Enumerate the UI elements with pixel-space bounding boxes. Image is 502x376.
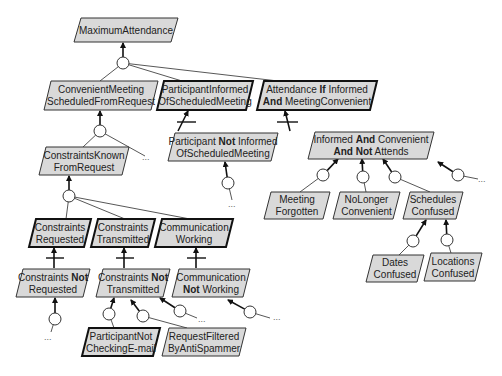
refinement-and-link: ... bbox=[228, 300, 281, 322]
goal-label: Locations bbox=[432, 256, 475, 267]
and-refinement-circle-icon bbox=[103, 308, 115, 320]
goal-node-constraints-not-requested[interactable]: Constraints NotRequested bbox=[16, 269, 90, 297]
refinement-and-link bbox=[399, 220, 426, 255]
goal-label: ParticipantInformed bbox=[162, 84, 249, 95]
ellipsis-text: ... bbox=[478, 174, 486, 184]
goal-label: Confused bbox=[374, 269, 417, 280]
goal-label: CheckingE-mail bbox=[86, 343, 156, 354]
goal-label: Constraints bbox=[98, 222, 149, 233]
goal-node-locations-confused[interactable]: LocationsConfused bbox=[424, 253, 482, 281]
and-refinement-circle-icon bbox=[407, 235, 419, 247]
obstruction-link bbox=[177, 111, 196, 131]
goal-label: Communication bbox=[159, 222, 228, 233]
goal-label: Working bbox=[176, 234, 213, 245]
goal-label: And Not Attends bbox=[333, 146, 408, 157]
goal-node-informed-and-convenient[interactable]: Informed And ConvenientAnd Not Attends bbox=[308, 132, 434, 159]
goal-label: ConvenientMeeting bbox=[58, 84, 144, 95]
goal-node-participant-not-informed[interactable]: Participant Not InformedOfScheduledMeeti… bbox=[168, 133, 278, 161]
obstruction-link bbox=[46, 248, 64, 268]
refinement-and-link: ... bbox=[222, 162, 236, 209]
goal-node-participant-not-checking-email[interactable]: ParticipantNotCheckingE-mail bbox=[82, 328, 160, 356]
goal-node-participant-informed[interactable]: ParticipantInformedOfScheduledMeeting bbox=[157, 81, 253, 110]
goal-label: Constraints Not bbox=[98, 272, 169, 283]
and-refinement-circle-icon bbox=[117, 57, 129, 69]
and-refinement-circle-icon bbox=[441, 234, 453, 246]
goal-label: ParticipantNot bbox=[90, 331, 153, 342]
and-refinement-circle-icon bbox=[137, 310, 149, 322]
goal-label: NoLonger bbox=[345, 194, 390, 205]
goal-label: Requested bbox=[36, 234, 84, 245]
goal-node-schedules-confused[interactable]: SchedulesConfused bbox=[403, 192, 463, 219]
obstruction-link bbox=[277, 111, 298, 131]
goal-label: Forgotten bbox=[276, 206, 319, 217]
goal-node-constraints-not-transmitted[interactable]: Constraints NotTransmitted bbox=[96, 269, 170, 297]
goal-node-dates-confused[interactable]: DatesConfused bbox=[366, 255, 424, 282]
goal-label: Attendance If Informed bbox=[266, 84, 368, 95]
obstruction-link bbox=[187, 248, 206, 268]
goal-label: OfScheduledMeeting bbox=[176, 148, 269, 159]
goal-label: And MeetingConvenient bbox=[263, 96, 372, 107]
obstruction-link bbox=[116, 248, 134, 268]
ellipsis-text: ... bbox=[228, 199, 236, 209]
goal-label: Requested bbox=[29, 284, 77, 295]
and-refinement-circle-icon bbox=[222, 177, 234, 189]
ellipsis-text: ... bbox=[273, 312, 281, 322]
goal-label: Informed And Convenient bbox=[313, 134, 428, 145]
goal-node-maximum-attendance[interactable]: MaximumAttendance bbox=[74, 18, 178, 42]
refinement-and-link: ... bbox=[44, 298, 61, 342]
goal-diagram: .................. MaximumAttendanceConv… bbox=[0, 0, 502, 376]
refinement-and-link bbox=[300, 159, 338, 192]
refinement-and-link: ... bbox=[160, 298, 206, 324]
goal-label: Confused bbox=[412, 206, 455, 217]
and-refinement-circle-icon bbox=[63, 190, 75, 202]
refinement-and-link bbox=[383, 159, 430, 192]
refinement-and-link bbox=[63, 176, 190, 219]
goal-label: ConstraintsKnown bbox=[43, 150, 124, 161]
goal-label: FromRequest bbox=[54, 162, 115, 173]
goal-label: Constraints bbox=[35, 222, 86, 233]
and-refinement-circle-icon bbox=[389, 171, 401, 183]
goal-node-constraints-requested[interactable]: ConstraintsRequested bbox=[29, 219, 91, 247]
goal-label: ScheduledFromRequest bbox=[47, 96, 155, 107]
goal-label: Confused bbox=[432, 268, 475, 279]
goal-nodes: MaximumAttendanceConvenientMeetingSchedu… bbox=[16, 18, 482, 356]
goal-node-constraints-transmitted[interactable]: ConstraintsTransmitted bbox=[91, 219, 155, 247]
refinement-and-link bbox=[103, 298, 115, 328]
ellipsis-text: ... bbox=[142, 152, 150, 162]
and-refinement-circle-icon bbox=[357, 171, 369, 183]
goal-label: Not Working bbox=[183, 284, 239, 295]
goal-node-no-longer-convenient[interactable]: NoLongerConvenient bbox=[333, 192, 400, 219]
goal-label: ByAntiSpammer bbox=[168, 343, 241, 354]
goal-label: Communication bbox=[176, 272, 245, 283]
and-refinement-circle-icon bbox=[174, 305, 186, 317]
goal-label: Transmitted bbox=[107, 284, 159, 295]
refinement-and-link bbox=[100, 43, 278, 81]
goal-node-communication-working[interactable]: CommunicationWorking bbox=[155, 219, 233, 247]
goal-node-constraints-known[interactable]: ConstraintsKnownFromRequest bbox=[39, 147, 129, 175]
goal-label: Meeting bbox=[279, 194, 315, 205]
goal-label: RequestFiltered bbox=[169, 331, 240, 342]
and-refinement-circle-icon bbox=[94, 125, 106, 137]
goal-label: OfScheduledMeeting bbox=[158, 96, 251, 107]
goal-label: Schedules bbox=[410, 194, 457, 205]
goal-label: Participant Not Informed bbox=[169, 136, 278, 147]
refinement-and-link bbox=[441, 220, 453, 253]
refinement-and-link bbox=[357, 159, 369, 192]
ellipsis-text: ... bbox=[198, 314, 206, 324]
goal-node-convenient-meeting[interactable]: ConvenientMeetingScheduledFromRequest bbox=[44, 81, 158, 110]
goal-node-meeting-forgotten[interactable]: MeetingForgotten bbox=[264, 192, 330, 219]
ellipsis-text: ... bbox=[44, 332, 52, 342]
goal-label: MaximumAttendance bbox=[79, 25, 173, 36]
goal-label: Constraints Not bbox=[18, 272, 89, 283]
refinement-and-link: ... bbox=[438, 162, 486, 184]
and-refinement-circle-icon bbox=[244, 306, 256, 318]
goal-label: Dates bbox=[382, 257, 408, 268]
goal-node-attendance-if-informed[interactable]: Attendance If InformedAnd MeetingConveni… bbox=[257, 81, 377, 110]
goal-node-request-filtered-by-antispammer[interactable]: RequestFilteredByAntiSpammer bbox=[162, 328, 246, 356]
goal-node-communication-not-working[interactable]: CommunicationNot Working bbox=[172, 269, 250, 297]
and-refinement-circle-icon bbox=[452, 169, 464, 181]
and-refinement-circle-icon bbox=[49, 313, 61, 325]
and-refinement-circle-icon bbox=[317, 169, 329, 181]
goal-label: Transmitted bbox=[97, 234, 149, 245]
goal-label: Convenient bbox=[341, 206, 392, 217]
